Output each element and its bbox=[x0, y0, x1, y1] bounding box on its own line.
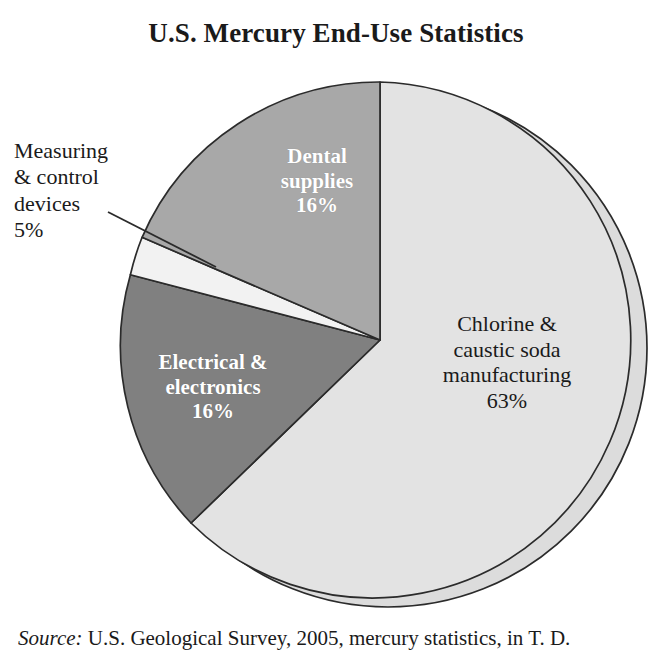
source-citation: Source: U.S. Geological Survey, 2005, me… bbox=[18, 626, 668, 651]
page-title: U.S. Mercury End-Use Statistics bbox=[0, 18, 672, 49]
pie-label-chlorine: Chlorine & caustic soda manufacturing 63… bbox=[398, 311, 616, 414]
pie-label-electrical: Electrical & electronics 16% bbox=[108, 350, 318, 424]
pie-chart-plot-area: Dental supplies 16% Electrical & electro… bbox=[0, 62, 672, 618]
pie-label-measuring: Measuring & control devices 5% bbox=[14, 138, 174, 244]
source-prefix: Source: bbox=[18, 626, 83, 650]
pie-label-dental: Dental supplies 16% bbox=[232, 144, 402, 218]
source-text: U.S. Geological Survey, 2005, mercury st… bbox=[83, 626, 571, 650]
pie-chart-figure: U.S. Mercury End-Use Statistics Dental s… bbox=[0, 0, 672, 653]
